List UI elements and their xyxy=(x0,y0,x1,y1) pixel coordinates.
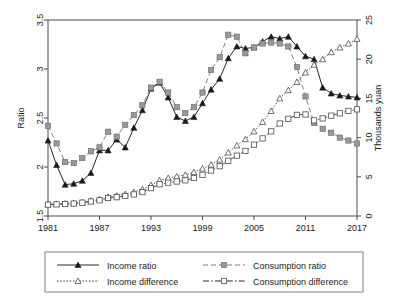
data-point xyxy=(140,103,145,108)
data-point xyxy=(123,193,128,198)
x-tick-label: 1999 xyxy=(192,223,212,233)
data-point xyxy=(277,41,282,46)
data-point xyxy=(346,138,351,143)
x-tick-label: 2005 xyxy=(244,223,264,233)
data-point xyxy=(88,149,93,154)
data-point xyxy=(277,121,282,126)
data-point xyxy=(217,55,222,60)
data-point xyxy=(80,200,85,205)
data-point xyxy=(71,201,76,206)
y-tick-label-left: 3 xyxy=(35,66,45,71)
x-tick-label: 1993 xyxy=(141,223,161,233)
data-point xyxy=(320,126,325,131)
data-point xyxy=(140,189,145,194)
x-tick-label: 2017 xyxy=(347,223,367,233)
data-point xyxy=(320,116,325,121)
data-point xyxy=(105,129,110,134)
data-point xyxy=(114,134,119,139)
data-point xyxy=(354,107,359,112)
data-point xyxy=(97,145,102,150)
data-point xyxy=(148,85,153,90)
data-point xyxy=(148,186,153,191)
y-tick-label-right: 20 xyxy=(364,54,374,64)
data-point xyxy=(234,34,239,39)
data-point xyxy=(329,130,334,135)
x-tick-label: 2011 xyxy=(296,223,315,233)
data-point xyxy=(337,111,342,116)
data-point xyxy=(200,90,205,95)
legend-label: Consumption difference xyxy=(253,277,348,287)
data-point xyxy=(294,64,299,69)
legend-marker xyxy=(221,278,226,283)
data-point xyxy=(183,178,188,183)
data-point xyxy=(286,44,291,49)
data-point xyxy=(251,45,256,50)
data-point xyxy=(260,136,265,141)
y-tick-label-right: 0 xyxy=(364,213,374,218)
data-point xyxy=(54,141,59,146)
data-point xyxy=(45,202,50,207)
data-point xyxy=(88,199,93,204)
data-point xyxy=(183,110,188,115)
data-point xyxy=(123,122,128,127)
data-point xyxy=(114,195,119,200)
data-point xyxy=(251,142,256,147)
y-tick-label-left: 2.5 xyxy=(35,112,45,125)
data-point xyxy=(174,179,179,184)
data-point xyxy=(243,51,248,56)
data-point xyxy=(166,90,171,95)
data-point xyxy=(54,202,59,207)
data-point xyxy=(243,148,248,153)
legend-label: Income ratio xyxy=(107,261,157,271)
data-point xyxy=(303,112,308,117)
data-point xyxy=(174,105,179,110)
chart-container: 1981198719931999200520112017 1.522.533.5… xyxy=(0,0,393,299)
y-tick-label-left: 3.5 xyxy=(35,14,45,27)
data-point xyxy=(191,105,196,110)
y-axis-right-title: Thousands yuan xyxy=(373,85,383,152)
y-tick-label-left: 2 xyxy=(35,164,45,169)
data-point xyxy=(329,113,334,118)
data-point xyxy=(80,156,85,161)
x-tick-label: 1987 xyxy=(89,223,109,233)
data-point xyxy=(63,159,68,164)
legend-label: Consumption ratio xyxy=(253,261,326,271)
data-point xyxy=(337,135,342,140)
data-point xyxy=(97,198,102,203)
data-point xyxy=(208,67,213,72)
data-point xyxy=(105,195,110,200)
data-point xyxy=(269,40,274,45)
data-point xyxy=(131,192,136,197)
data-point xyxy=(200,172,205,177)
data-point xyxy=(311,118,316,123)
data-point xyxy=(286,116,291,121)
y-tick-label-right: 25 xyxy=(364,15,374,25)
data-point xyxy=(63,201,68,206)
legend-label: Income difference xyxy=(107,277,178,287)
data-point xyxy=(226,158,231,163)
data-point xyxy=(234,153,239,158)
ratio-difference-line-chart: 1981198719931999200520112017 1.522.533.5… xyxy=(0,0,393,299)
data-point xyxy=(166,180,171,185)
data-point xyxy=(157,182,162,187)
data-point xyxy=(45,123,50,128)
data-point xyxy=(303,94,308,99)
y-tick-label-right: 5 xyxy=(364,174,374,179)
data-point xyxy=(260,41,265,46)
data-point xyxy=(191,175,196,180)
y-tick-label-left: 1.5 xyxy=(35,210,45,223)
y-axis-left-title: Ratio xyxy=(16,107,26,128)
data-point xyxy=(346,108,351,113)
data-point xyxy=(269,129,274,134)
data-point xyxy=(208,168,213,173)
x-tick-label: 1981 xyxy=(38,223,58,233)
data-point xyxy=(131,112,136,117)
legend-marker xyxy=(221,262,226,267)
data-point xyxy=(217,164,222,169)
data-point xyxy=(226,32,231,37)
data-point xyxy=(71,160,76,165)
data-point xyxy=(294,112,299,117)
data-point xyxy=(354,141,359,146)
data-point xyxy=(157,79,162,84)
chart-legend: Income ratioConsumption ratioIncome diff… xyxy=(45,252,363,292)
